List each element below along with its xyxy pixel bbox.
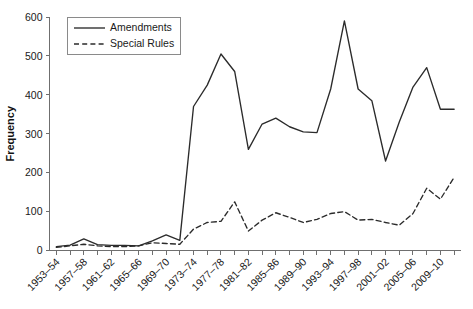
chart-container: 0100200300400500600 Frequency 1953–54195… [0, 0, 473, 309]
x-axis-ticks [56, 251, 454, 255]
y-axis-tick-label: 100 [25, 205, 43, 217]
y-axis-title: Frequency [4, 105, 16, 162]
chart-legend: AmendmentsSpecial Rules [67, 17, 180, 54]
y-axis-tick-label: 300 [25, 128, 43, 140]
line-chart: 0100200300400500600 Frequency 1953–54195… [0, 0, 473, 309]
series-line-amendments [56, 21, 454, 247]
x-axis-tick-labels: 1953–541957–581961–621965–661969–701973–… [24, 255, 446, 293]
y-axis-ticks: 0100200300400500600 [25, 11, 50, 256]
y-axis-tick-label: 500 [25, 50, 43, 62]
y-axis-group: 0100200300400500600 Frequency [4, 11, 50, 256]
y-axis-tick-label: 600 [25, 11, 43, 23]
x-axis-group: 1953–541957–581961–621965–661969–701973–… [24, 251, 461, 293]
y-axis-tick-label: 400 [25, 89, 43, 101]
legend-label-amendments: Amendments [110, 21, 172, 33]
series-line-special-rules [56, 177, 454, 247]
y-axis-tick-label: 0 [37, 244, 43, 256]
series-layer [56, 21, 454, 247]
y-axis-tick-label: 200 [25, 166, 43, 178]
legend-label-special-rules: Special Rules [110, 37, 174, 49]
